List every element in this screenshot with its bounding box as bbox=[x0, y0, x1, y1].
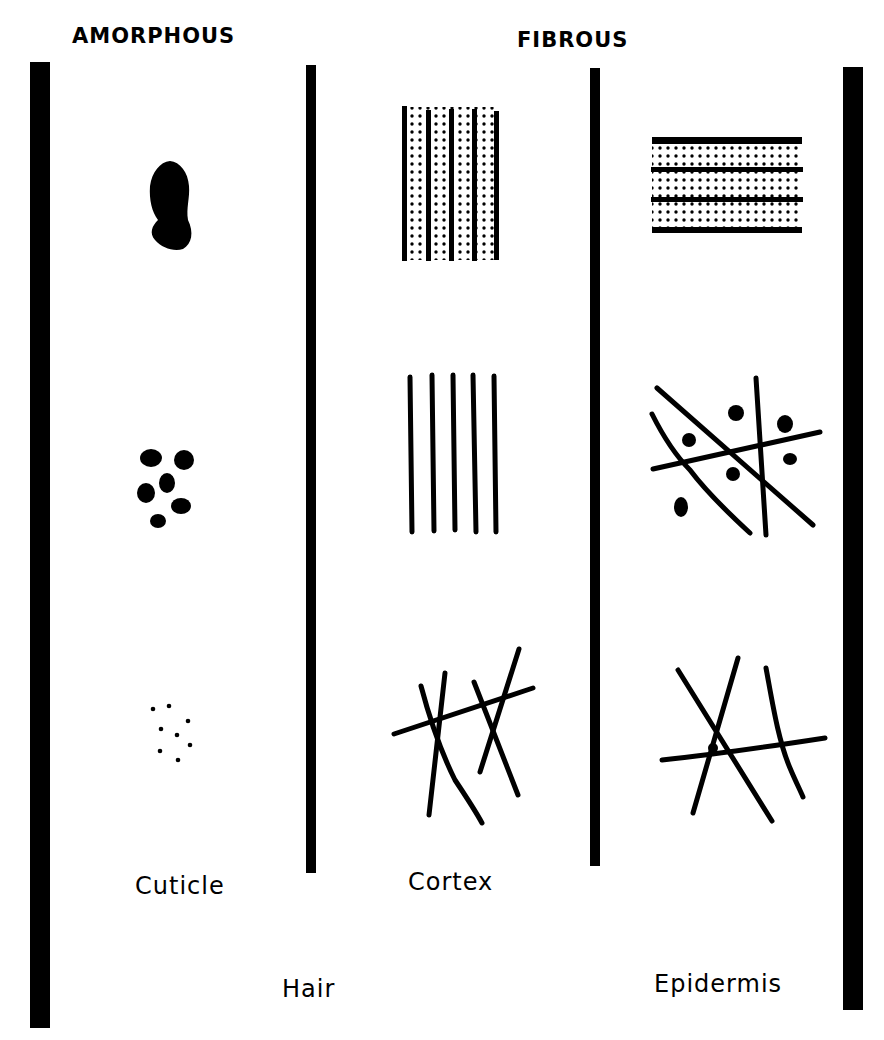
epidermis-striped-block-icon bbox=[651, 137, 803, 233]
label-hair: Hair bbox=[282, 975, 335, 1003]
cortex-parallel-filaments-icon bbox=[410, 375, 496, 532]
cuticle-granule-cluster-icon bbox=[137, 449, 194, 528]
label-cuticle: Cuticle bbox=[135, 872, 225, 900]
cuticle-large-blob-icon bbox=[150, 161, 192, 250]
cortex-striped-block-icon bbox=[402, 106, 499, 261]
label-cortex: Cortex bbox=[408, 868, 493, 896]
cuticle-fine-dots-icon bbox=[151, 704, 193, 763]
label-epidermis: Epidermis bbox=[654, 970, 782, 998]
cortex-crossed-filaments-icon bbox=[394, 649, 533, 823]
epidermis-filaments-granules-icon bbox=[652, 378, 820, 535]
epidermis-crossed-filaments-icon bbox=[662, 658, 825, 821]
